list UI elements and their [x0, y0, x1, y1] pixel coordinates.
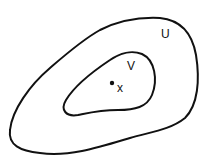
- inner-set-v-boundary: [64, 52, 155, 115]
- outer-set-u-label: U: [161, 27, 170, 41]
- point-x-label: x: [117, 81, 123, 95]
- point-x-dot: [110, 81, 114, 85]
- inner-set-v-label: V: [127, 59, 135, 73]
- open-set-diagram: x V U: [0, 0, 209, 164]
